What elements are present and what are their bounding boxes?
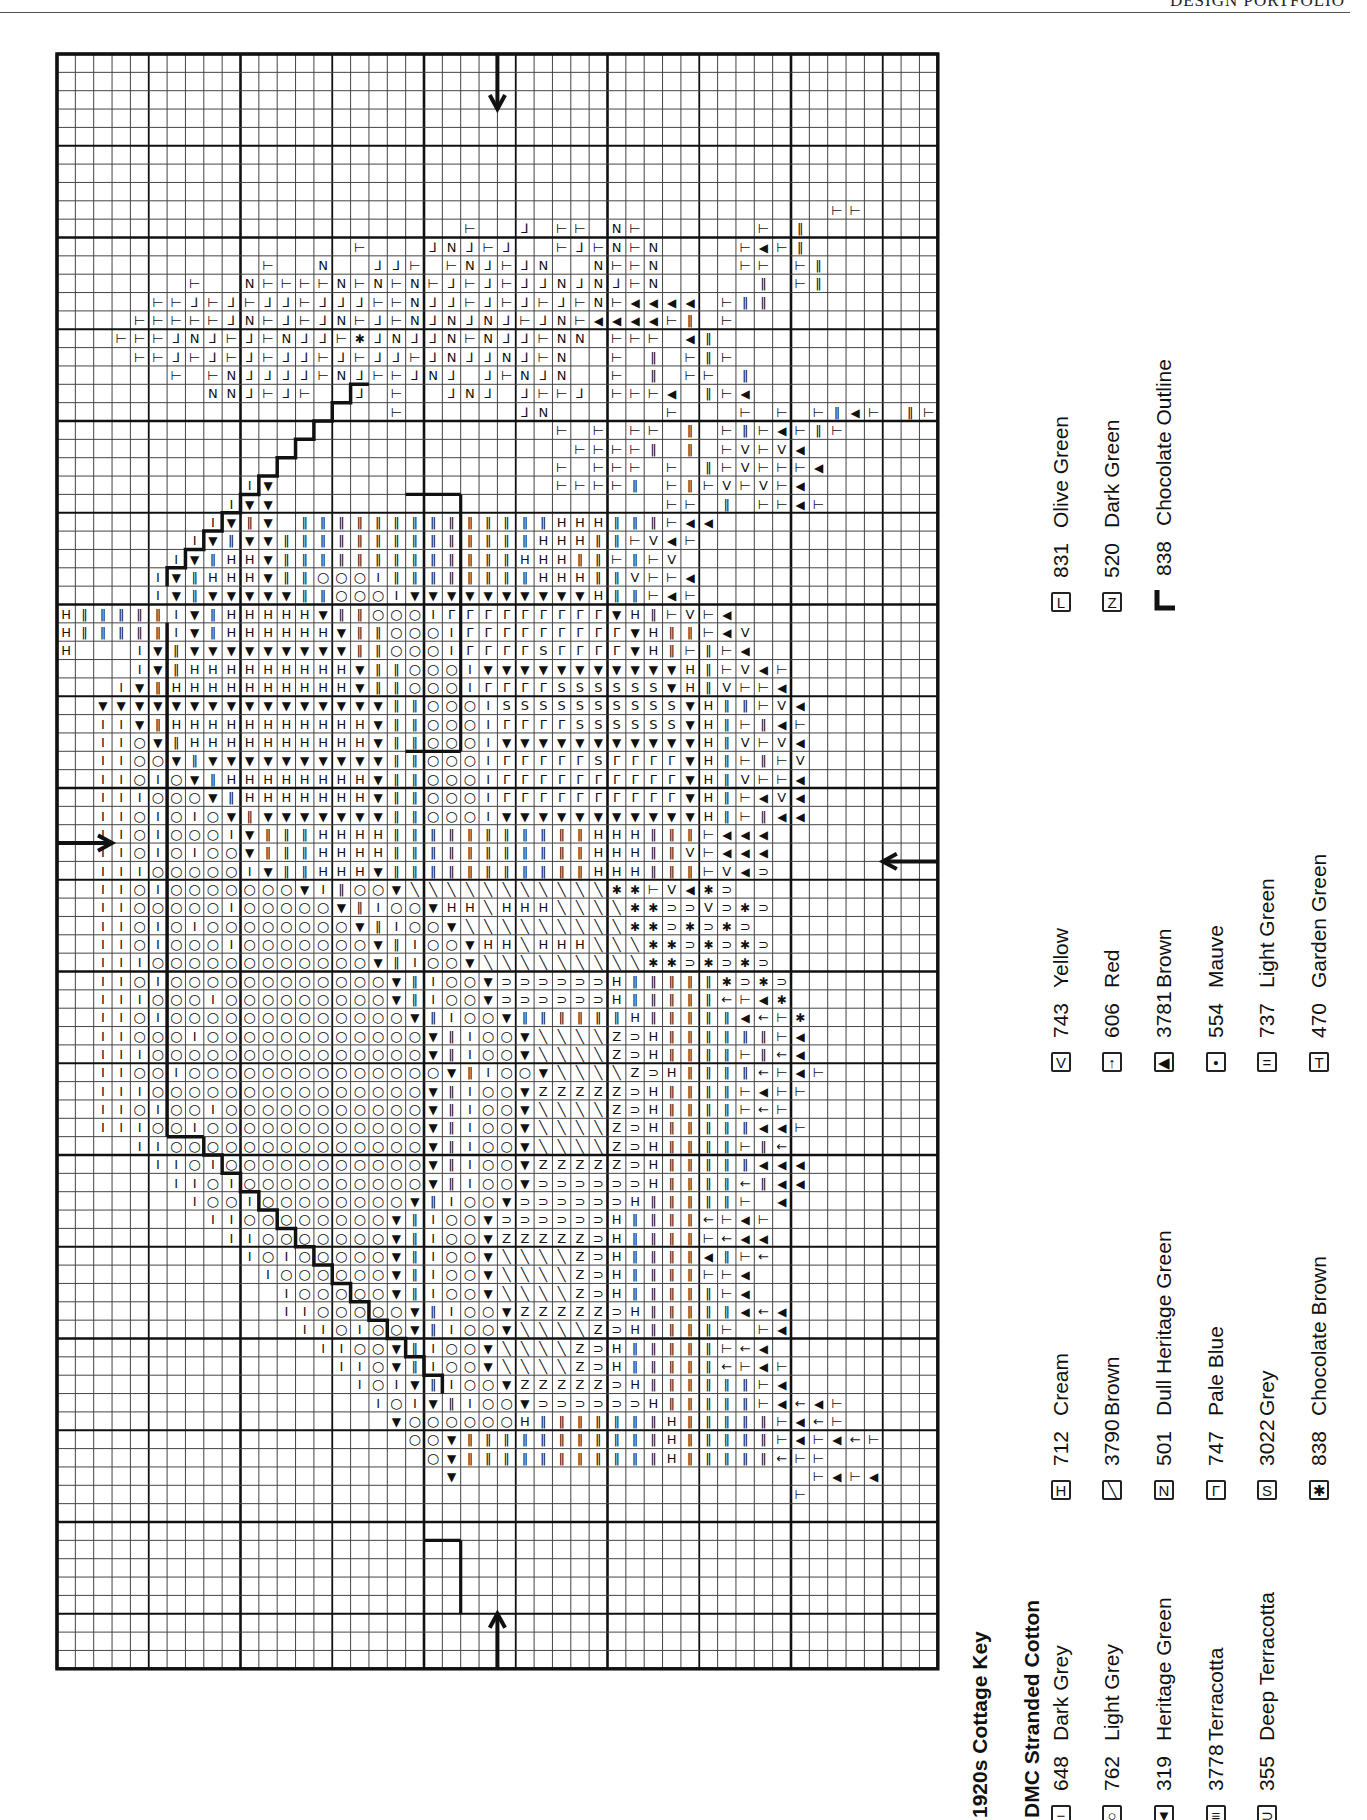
svg-text:N: N [593, 258, 603, 273]
svg-text:○: ○ [500, 1119, 512, 1135]
svg-text:⅃: ⅃ [246, 368, 253, 383]
svg-text:‖: ‖ [467, 827, 474, 842]
svg-text:⊢: ⊢ [629, 442, 640, 457]
svg-text:I: I [321, 882, 325, 897]
svg-text:‖: ‖ [173, 662, 180, 677]
svg-text:○: ○ [482, 1028, 494, 1044]
svg-text:╲: ╲ [538, 1321, 548, 1338]
svg-text:⅃: ⅃ [356, 295, 363, 310]
svg-text:H: H [318, 662, 328, 677]
svg-text:H: H [557, 533, 567, 548]
svg-text:⅃: ⅃ [521, 350, 528, 365]
svg-text:◀: ◀ [832, 1470, 842, 1484]
svg-text:Z: Z [557, 1377, 566, 1392]
cross-stitch-chart: ⊢⊢⊢⅃⊢⊢N⊢⊢‖⊢⅃N⅃⊢⅃⊢⅃⊢N⊢N⊢◀⊢‖⊢N⅃⅃⊢⊢N⅃⊢⅃NN⊢⊢… [0, 0, 960, 1700]
svg-text:V: V [777, 790, 786, 805]
key-entry-648-dash: −648Dark Grey [1048, 1645, 1074, 1820]
svg-text:H: H [355, 827, 365, 842]
svg-text:I: I [468, 680, 472, 695]
svg-text:╲: ╲ [575, 1321, 585, 1338]
svg-text:V: V [704, 900, 713, 915]
key-entry-838-asterisk: ✱838Chocolate Brown [1306, 1256, 1332, 1500]
svg-text:I: I [431, 1359, 435, 1374]
svg-text:‖: ‖ [650, 607, 657, 622]
svg-text:H: H [667, 1432, 677, 1447]
svg-text:⊢: ⊢ [171, 368, 182, 383]
svg-text:I: I [229, 1212, 233, 1227]
svg-text:▼: ▼ [630, 810, 640, 824]
svg-text:○: ○ [372, 1340, 384, 1356]
svg-text:‖: ‖ [81, 625, 88, 640]
svg-text:◀: ◀ [796, 1030, 806, 1044]
svg-text:Γ: Γ [631, 772, 639, 787]
svg-text:Γ: Γ [485, 680, 493, 695]
svg-text:⅃: ⅃ [246, 350, 253, 365]
svg-text:N: N [410, 295, 420, 310]
svg-text:‖: ‖ [687, 1029, 694, 1044]
svg-text:⊢: ⊢ [226, 350, 237, 365]
svg-text:‖: ‖ [687, 1047, 694, 1062]
svg-text:○: ○ [464, 991, 476, 1007]
svg-text:N: N [557, 368, 567, 383]
svg-text:‖: ‖ [724, 1084, 731, 1099]
svg-text:‖: ‖ [687, 1341, 694, 1356]
svg-text:⊢: ⊢ [721, 1212, 732, 1227]
svg-text:H: H [538, 533, 548, 548]
svg-text:○: ○ [390, 1321, 402, 1337]
svg-text:◀: ◀ [777, 1305, 787, 1319]
svg-text:○: ○ [133, 1101, 145, 1117]
svg-text:○: ○ [152, 1064, 164, 1080]
svg-text:‖: ‖ [760, 276, 767, 291]
svg-text:○: ○ [280, 1064, 292, 1080]
svg-text:○: ○ [372, 1303, 384, 1319]
svg-text:○: ○ [280, 1046, 292, 1062]
svg-text:⊃: ⊃ [740, 974, 751, 989]
svg-text:H: H [557, 937, 567, 952]
svg-text:⊃: ⊃ [593, 1249, 604, 1264]
svg-text:○: ○ [335, 1211, 347, 1227]
svg-text:⊢: ⊢ [189, 313, 200, 328]
svg-text:‖: ‖ [540, 1010, 547, 1025]
svg-text:◀: ◀ [741, 1213, 751, 1227]
svg-text:○: ○ [133, 734, 145, 750]
svg-text:○: ○ [372, 881, 384, 897]
svg-text:○: ○ [262, 1101, 274, 1117]
svg-text:○: ○ [409, 1175, 421, 1191]
svg-text:H: H [300, 772, 310, 787]
svg-text:I: I [248, 478, 252, 493]
svg-text:○: ○ [445, 991, 457, 1007]
svg-text:○: ○ [390, 606, 402, 622]
svg-text:○: ○ [390, 1175, 402, 1191]
svg-text:I: I [450, 643, 454, 658]
svg-text:‖: ‖ [650, 1010, 657, 1025]
svg-text:I: I [486, 717, 490, 732]
svg-text:▼: ▼ [355, 681, 365, 695]
svg-text:H: H [245, 717, 255, 732]
svg-text:‖: ‖ [467, 533, 474, 548]
svg-text:‖: ‖ [724, 717, 731, 732]
svg-text:⊢: ⊢ [574, 295, 585, 310]
svg-text:○: ○ [519, 1064, 531, 1080]
svg-text:╲: ╲ [483, 918, 493, 935]
svg-text:H: H [300, 607, 310, 622]
svg-text:‖: ‖ [301, 515, 308, 530]
svg-text:‖: ‖ [705, 974, 712, 989]
svg-text:▼: ▼ [557, 663, 567, 677]
svg-text:H: H [557, 515, 567, 530]
svg-text:Z: Z [594, 1322, 603, 1337]
svg-text:○: ○ [317, 1175, 329, 1191]
svg-text:╲: ╲ [538, 1266, 548, 1283]
svg-text:I: I [468, 1139, 472, 1154]
svg-text:‖: ‖ [650, 442, 657, 457]
svg-text:⊢: ⊢ [629, 386, 640, 401]
svg-text:I: I [156, 919, 160, 934]
svg-text:⊢: ⊢ [721, 1341, 732, 1356]
svg-text:‖: ‖ [687, 1157, 694, 1172]
svg-text:○: ○ [299, 1175, 311, 1191]
svg-text:‖: ‖ [155, 607, 162, 622]
svg-text:⊢: ⊢ [538, 331, 549, 346]
svg-text:←: ← [758, 1102, 769, 1117]
svg-text:✱: ✱ [648, 938, 658, 952]
svg-text:⊃: ⊃ [666, 919, 677, 934]
svg-text:○: ○ [500, 1138, 512, 1154]
